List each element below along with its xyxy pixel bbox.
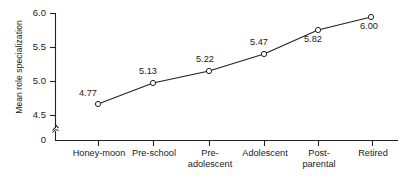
y-tick-label-6-0: 6.0 xyxy=(20,8,46,18)
y-tick-label-0: 0 xyxy=(20,135,46,145)
data-point-marker xyxy=(315,27,320,32)
data-label-2: 5.13 xyxy=(139,66,157,76)
data-point-marker xyxy=(95,101,100,106)
data-point-marker xyxy=(150,80,155,85)
data-point-marker xyxy=(206,68,211,73)
data-label-4: 5.47 xyxy=(250,37,268,47)
data-point-marker xyxy=(261,51,266,56)
y-tick-label-5-0: 5.0 xyxy=(20,76,46,86)
data-label-5: 5.82 xyxy=(304,34,322,44)
data-label-3: 5.22 xyxy=(196,54,214,64)
data-label-1: 4.77 xyxy=(79,88,97,98)
data-label-6: 6.00 xyxy=(360,21,378,31)
y-tick-label-5-5: 5.5 xyxy=(20,42,46,52)
x-tick-label-retired: Retired xyxy=(336,148,403,159)
line-chart: Mean role specialization xyxy=(0,0,403,183)
data-line xyxy=(98,17,371,104)
y-tick-label-4-5: 4.5 xyxy=(20,110,46,120)
data-point-marker xyxy=(368,14,373,19)
